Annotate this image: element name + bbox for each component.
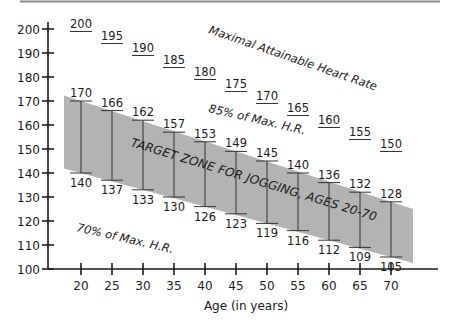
y-tick-label: 190	[17, 47, 40, 61]
lower-hr-value: 123	[225, 217, 247, 231]
upper-hr-value: 157	[163, 117, 185, 131]
x-tick-label: 55	[290, 279, 305, 293]
y-tick-label: 160	[17, 119, 40, 133]
upper-hr-value: 140	[287, 158, 309, 172]
x-tick-label: 35	[166, 279, 181, 293]
x-tick-label: 20	[73, 279, 88, 293]
max-hr-value: 200	[70, 17, 92, 31]
x-tick-label: 30	[135, 279, 150, 293]
y-tick-label: 200	[17, 23, 40, 37]
max-hr-value: 180	[194, 65, 216, 79]
max-hr-value: 195	[101, 29, 123, 43]
lower-hr-value: 126	[194, 210, 216, 224]
x-tick-label: 40	[197, 279, 212, 293]
upper-hr-value: 170	[70, 86, 92, 100]
lower-hr-value: 130	[163, 200, 185, 214]
y-tick-label: 110	[17, 239, 40, 253]
x-axis-ticks: 2025303540455055606570	[73, 263, 398, 293]
max-hr-value: 155	[349, 125, 371, 139]
y-tick-label: 170	[17, 95, 40, 109]
lower-hr-annotation: 70% of Max. H.R.	[75, 220, 175, 256]
lower-hr-value: 109	[349, 250, 371, 264]
x-tick-label: 70	[383, 279, 398, 293]
max-hr-value: 150	[380, 137, 402, 151]
upper-hr-value: 132	[349, 177, 371, 191]
lower-hr-value: 133	[132, 193, 154, 207]
max-hr-value: 175	[225, 77, 247, 91]
y-tick-label: 180	[17, 71, 40, 85]
lower-hr-value: 137	[101, 183, 123, 197]
x-axis-title: Age (in years)	[204, 299, 288, 313]
lower-hr-value: 140	[70, 176, 92, 190]
upper-hr-value: 145	[256, 146, 278, 160]
lower-hr-value: 119	[256, 226, 278, 240]
upper-hr-value: 166	[101, 96, 123, 110]
max-hr-value: 170	[256, 89, 278, 103]
heart-rate-chart: 100110120130140150160170180190200 202530…	[0, 0, 453, 333]
x-tick-label: 50	[259, 279, 274, 293]
upper-hr-value: 153	[194, 127, 216, 141]
x-tick-label: 60	[321, 279, 336, 293]
lower-hr-value: 116	[287, 234, 309, 248]
max-hr-value: 160	[318, 113, 340, 127]
max-hr-value: 190	[132, 41, 154, 55]
y-tick-label: 100	[17, 263, 40, 277]
max-hr-value: 185	[163, 53, 185, 67]
upper-hr-value: 149	[225, 136, 247, 150]
y-tick-label: 120	[17, 215, 40, 229]
lower-hr-value: 112	[318, 243, 340, 257]
x-tick-label: 65	[352, 279, 367, 293]
x-tick-label: 45	[228, 279, 243, 293]
max-hr-value: 165	[287, 101, 309, 115]
upper-hr-value: 136	[318, 168, 340, 182]
y-tick-label: 140	[17, 167, 40, 181]
upper-hr-value: 162	[132, 105, 154, 119]
x-tick-label: 25	[104, 279, 119, 293]
lower-hr-value: 105	[380, 260, 402, 274]
upper-hr-value: 128	[380, 187, 402, 201]
y-tick-label: 130	[17, 191, 40, 205]
y-tick-label: 150	[17, 143, 40, 157]
